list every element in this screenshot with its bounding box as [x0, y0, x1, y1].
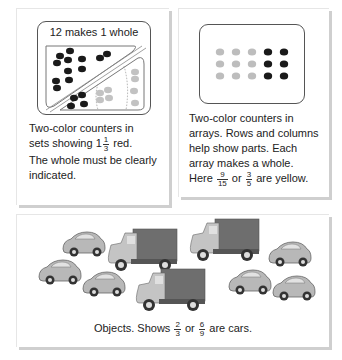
- fraction-six-ninths: 69: [199, 321, 205, 338]
- cars-and-trucks-illustration: [17, 215, 329, 325]
- car-icon: [269, 242, 311, 267]
- truck-icon: [108, 229, 177, 271]
- truck-icon: [136, 269, 205, 311]
- arrays-caption: Two-color counters in arrays. Rows and c…: [189, 111, 329, 188]
- fraction-three-fifths: 35: [246, 171, 252, 188]
- fraction-nine-fifteenths: 915: [217, 171, 228, 188]
- sets-panel: 12 makes 1 whole: [16, 8, 169, 205]
- counters-sets-illustration: [38, 22, 150, 114]
- car-icon: [63, 232, 105, 257]
- objects-panel: Objects. Shows 23 or 69 are cars.: [16, 214, 329, 347]
- counters-array-illustration: [200, 25, 304, 103]
- car-icon: [273, 276, 315, 301]
- fraction-two-thirds: 23: [174, 321, 180, 338]
- sets-caption: Two-color counters in sets showing 113 r…: [29, 121, 169, 183]
- car-icon: [229, 270, 271, 295]
- sets-frame: 12 makes 1 whole: [37, 21, 151, 115]
- array-frame: [199, 24, 305, 104]
- fraction-one-third: 13: [103, 136, 109, 153]
- objects-caption: Objects. Shows 23 or 69 are cars.: [17, 321, 329, 338]
- car-icon: [39, 260, 81, 285]
- arrays-panel: Two-color counters in arrays. Rows and c…: [178, 8, 329, 197]
- truck-icon: [190, 219, 259, 261]
- car-icon: [83, 272, 125, 297]
